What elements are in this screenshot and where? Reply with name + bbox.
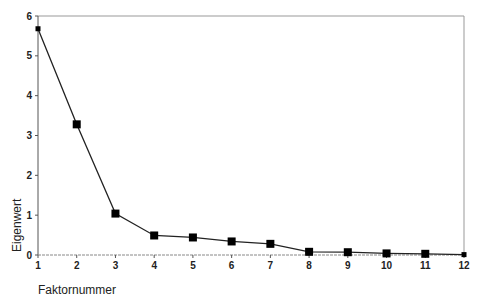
y-tick-label: 0	[26, 250, 32, 261]
y-tick-label: 4	[26, 90, 32, 101]
data-point-marker	[228, 237, 236, 245]
scree-plot: 0123456123456789101112 Faktornummer Eige…	[0, 0, 481, 302]
data-point-marker	[111, 210, 119, 218]
x-tick-label: 9	[345, 260, 351, 271]
data-point-marker	[266, 240, 274, 248]
x-tick-label: 11	[420, 260, 431, 271]
data-point-marker	[462, 252, 467, 257]
y-tick-label: 1	[26, 210, 32, 221]
y-axis-label: Eigenwert	[10, 198, 24, 252]
data-point-marker	[383, 249, 391, 257]
x-tick-label: 1	[35, 260, 41, 271]
series-line	[38, 29, 464, 255]
x-tick-label: 12	[458, 260, 470, 271]
data-point-marker	[421, 250, 429, 258]
x-tick-label: 5	[190, 260, 196, 271]
y-tick-label: 2	[26, 170, 32, 181]
data-point-marker	[73, 120, 81, 128]
x-tick-label: 10	[381, 260, 393, 271]
data-point-marker	[305, 248, 313, 256]
x-axis-label: Faktornummer	[38, 283, 116, 297]
y-tick-label: 3	[26, 130, 32, 141]
axis-ticks: 0123456123456789101112	[26, 11, 470, 272]
x-tick-label: 2	[74, 260, 80, 271]
x-tick-label: 6	[229, 260, 235, 271]
x-tick-label: 3	[113, 260, 119, 271]
y-tick-label: 5	[26, 50, 32, 61]
data-point-marker	[344, 248, 352, 256]
x-tick-label: 4	[151, 260, 157, 271]
data-point-marker	[189, 233, 197, 241]
plot-frame	[38, 16, 464, 255]
eigenvalue-series	[36, 26, 467, 258]
data-point-marker	[36, 26, 41, 31]
y-tick-label: 6	[26, 11, 32, 22]
x-tick-label: 8	[306, 260, 312, 271]
x-tick-label: 7	[268, 260, 274, 271]
data-point-marker	[150, 231, 158, 239]
